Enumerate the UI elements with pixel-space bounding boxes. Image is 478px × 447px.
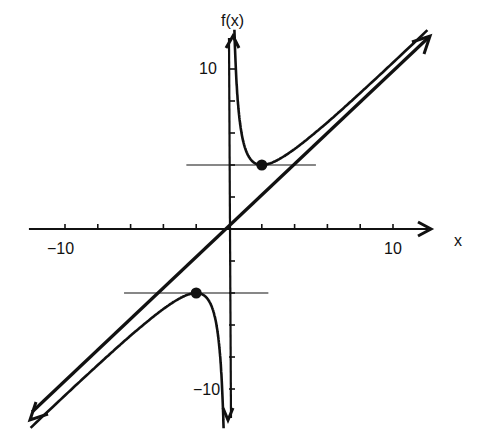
y-tick-label-neg10: −10 [193,381,220,399]
function-plot [0,0,478,447]
curve-arrow-up-icon [226,36,239,48]
x-tick-label-10: 10 [384,240,402,258]
y-axis-label: f(x) [221,12,244,30]
x-tick-label-neg10: −10 [47,240,74,258]
axes [29,38,431,418]
x-axis-label: x [454,232,462,250]
y-axis-line [229,38,231,418]
curve-left-branch [31,293,224,428]
y-tick-label-10: 10 [199,60,217,78]
curve-right-branch [234,30,427,165]
